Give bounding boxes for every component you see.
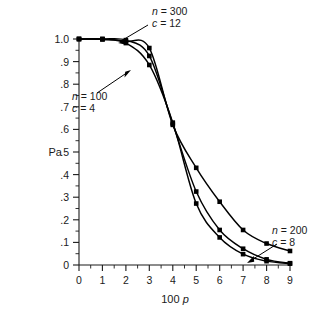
y-tick-label: .7 (60, 101, 69, 113)
data-point-marker (264, 259, 269, 264)
x-axis-title-prefix: 100 (161, 293, 182, 305)
data-point-marker (217, 235, 222, 240)
data-markers-n200-c8 (77, 37, 293, 254)
annotation-line-1: n = 300 (152, 5, 187, 17)
annotation-n200-c8: n = 200 c = 8 (247, 224, 307, 263)
data-markers-n100-c4 (77, 37, 293, 266)
data-point-marker (241, 246, 246, 251)
x-axis-title: 100 p (161, 293, 189, 305)
curve-path-n100-c4 (79, 39, 290, 264)
y-tick-label: .1 (60, 236, 69, 248)
x-axis-tick-labels: 0 1 2 3 4 5 6 7 8 9 (76, 274, 293, 286)
series-curve-n200-c8 (79, 39, 290, 251)
data-markers-n300-c12 (77, 37, 293, 266)
x-tick-label: 2 (123, 274, 129, 286)
annotation-value-n: = 200 (278, 224, 308, 236)
annotation-value-n: = 300 (158, 5, 188, 17)
x-tick-label: 1 (99, 274, 105, 286)
y-tick-label: .6 (60, 123, 69, 135)
data-point-marker (100, 37, 105, 42)
y-tick-label: 1.0 (54, 33, 69, 45)
y-tick-label: 0 (63, 259, 69, 271)
x-tick-label: 4 (170, 274, 176, 286)
annotation-value-n: = 100 (78, 90, 108, 102)
data-point-marker (288, 261, 293, 266)
data-point-marker (241, 228, 246, 233)
chart-canvas: 1.0 .9 .8 .7 .6 .5 .4 .3 .2 .1 0 0 1 2 3… (0, 0, 329, 324)
annotation-value-c: = 12 (157, 17, 181, 29)
oc-curve-figure: 1.0 .9 .8 .7 .6 .5 .4 .3 .2 .1 0 0 1 2 3… (0, 0, 329, 324)
x-tick-label: 3 (146, 274, 152, 286)
x-tick-label: 0 (76, 274, 82, 286)
data-point-marker (147, 54, 152, 59)
annotation-n300-c12: n = 300 c = 12 (118, 5, 187, 45)
annotation-arrow-head (125, 70, 132, 78)
annotation-leader-line (121, 25, 148, 41)
x-tick-label: 9 (287, 274, 293, 286)
data-point-marker (264, 241, 269, 246)
curve-path-n200-c8 (79, 39, 290, 251)
series-curve-n100-c4 (79, 39, 290, 264)
data-point-marker (194, 201, 199, 206)
y-tick-label: .4 (60, 169, 69, 181)
y-tick-label: .9 (60, 56, 69, 68)
x-tick-label: 5 (193, 274, 199, 286)
annotation-line-2: c = 4 (72, 102, 95, 114)
y-tick-label: .8 (60, 78, 69, 90)
axes-group (79, 39, 290, 265)
annotation-line-2: c = 12 (152, 17, 181, 29)
data-point-marker (147, 63, 152, 68)
y-tick-label: .2 (60, 214, 69, 226)
data-point-marker (288, 249, 293, 254)
data-point-marker (241, 252, 246, 257)
series-curve-n300-c12 (79, 39, 290, 264)
curve-path-n300-c12 (79, 39, 290, 264)
annotation-value-c: = 4 (77, 102, 95, 114)
data-point-marker (217, 228, 222, 233)
y-axis-title: Pa (49, 146, 63, 158)
annotation-n100-c4: n = 100 c = 4 (72, 70, 131, 114)
y-tick-label: .3 (60, 191, 69, 203)
annotation-line-1: n = 200 (272, 224, 307, 236)
data-point-marker (77, 37, 82, 42)
data-point-marker (170, 120, 175, 125)
annotation-line-1: n = 100 (72, 90, 107, 102)
x-tick-label: 6 (217, 274, 223, 286)
x-tick-label: 7 (240, 274, 246, 286)
x-tick-label: 8 (264, 274, 270, 286)
annotation-line-2: c = 8 (272, 236, 295, 248)
data-point-marker (217, 199, 222, 204)
data-point-marker (147, 46, 152, 51)
data-point-marker (194, 189, 199, 194)
annotation-value-c: = 8 (277, 236, 295, 248)
data-point-marker (194, 166, 199, 171)
x-axis-title-variable: p (182, 293, 189, 305)
